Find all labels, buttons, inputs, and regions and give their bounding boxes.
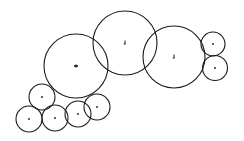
center-marker-icon <box>214 67 216 69</box>
center-marker-icon <box>173 55 175 59</box>
center-marker-icon <box>74 65 78 68</box>
center-marker-icon <box>41 96 43 98</box>
center-marker-icon <box>124 41 126 45</box>
circles-group <box>16 11 228 132</box>
center-marker-icon <box>96 106 98 108</box>
center-marker-icon <box>28 118 30 120</box>
center-marker-icon <box>212 43 214 45</box>
center-marker-icon <box>54 117 56 119</box>
circle-diagram <box>0 0 244 141</box>
center-marker-icon <box>77 113 79 115</box>
